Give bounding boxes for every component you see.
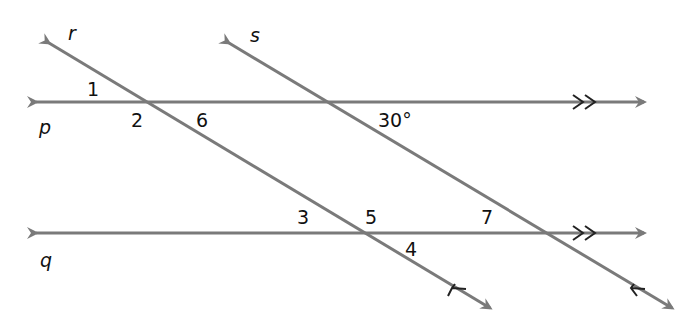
- line-label-s: s: [250, 24, 260, 46]
- angle-label-3: 3: [297, 206, 309, 228]
- angle-label-30: 30°: [378, 109, 412, 131]
- angle-label-4: 4: [405, 238, 417, 260]
- line-label-r: r: [68, 22, 77, 44]
- line-label-p: p: [38, 116, 51, 138]
- angle-label-1: 1: [87, 78, 99, 100]
- angle-label-7: 7: [481, 206, 493, 228]
- parallel-lines-diagram: r s p q 1 2 6 30° 3 5 4 7: [0, 0, 678, 326]
- angle-label-6: 6: [196, 109, 208, 131]
- line-r: [49, 43, 490, 308]
- angle-label-2: 2: [131, 109, 143, 131]
- line-label-q: q: [40, 249, 52, 271]
- angle-label-5: 5: [365, 206, 377, 228]
- line-p: [36, 95, 644, 109]
- line-s: [229, 43, 672, 308]
